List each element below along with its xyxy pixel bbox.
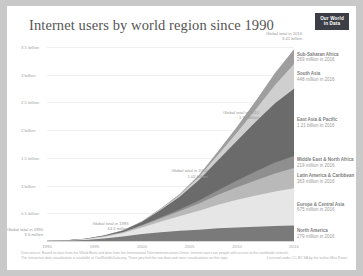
region-name: Latin America & Caribbean (297, 173, 354, 179)
footer-line-2: The interactive data visualization is av… (21, 256, 229, 260)
x-axis-line (47, 241, 294, 242)
chart-card: Internet users by world region since 199… (7, 6, 356, 270)
x-axis-tick-label: 2016 (289, 244, 299, 249)
milestone-value: 3.41 billion (260, 36, 302, 41)
milestone-value: 44.5 million (87, 226, 129, 231)
region-label-south-asia: South Asia448 million in 2016 (297, 71, 335, 82)
milestone-m1995: Global total in 199544.5 million (87, 221, 129, 231)
region-label-middle-east-north-africa: Middle East & North Africa219 million in… (297, 157, 354, 168)
x-axis-tick-label: 2005 (185, 244, 195, 249)
region-value: 219 million in 2016 (297, 163, 354, 169)
region-value: 448 million in 2016 (297, 77, 335, 83)
region-value: 269 million in 2016 (297, 57, 339, 63)
region-value: 675 million in 2016 (297, 207, 344, 213)
region-label-latin-america-caribbean: Latin America & Caribbean363 million in … (297, 173, 354, 184)
x-axis-tick-label: 2010 (232, 244, 242, 249)
footer-license: Licensed under CC-BY-SA by the author Ma… (267, 256, 348, 261)
milestone-value: 3.5 million (1, 232, 43, 237)
y-axis-tick-label: 1 billion (21, 183, 36, 188)
stacked-area-plot (47, 36, 294, 241)
milestone-label: Global total in 2000 (171, 168, 207, 173)
area-series-svg (47, 36, 294, 241)
region-label-europe-central-asia: Europe & Central Asia675 million in 2016 (297, 202, 344, 213)
region-name: Middle East & North Africa (297, 157, 354, 163)
x-axis-tick-label: 2000 (137, 244, 147, 249)
milestone-m2000: Global total in 20001.02 billion (166, 168, 208, 178)
region-label-north-america: North America279 million in 2016 (297, 228, 335, 239)
x-axis-tick-label: 1995 (90, 244, 100, 249)
y-axis-tick-label: 2 billion (21, 128, 36, 133)
y-axis-tick-label: 1.5 billion (21, 155, 39, 160)
logo-line-1: Our World (320, 16, 344, 21)
milestone-m1990: Global total in 19903.5 million (1, 227, 43, 237)
milestone-value: 1.02 billion (166, 174, 208, 179)
page-title: Internet users by world region since 199… (29, 17, 274, 34)
owid-logo[interactable]: Our World in Data (315, 13, 349, 30)
footer-note: Data source: Based on data from the Worl… (21, 251, 348, 261)
y-axis-tick-label: 3 billion (21, 72, 36, 77)
y-axis-tick-label: 3.5 billion (21, 45, 39, 50)
milestone-m2016: Global total in 20163.41 billion (260, 31, 302, 41)
region-value: 363 million in 2016 (297, 179, 354, 185)
region-value: 279 million in 2016 (297, 234, 335, 240)
y-axis-tick-label: 2.5 billion (21, 100, 39, 105)
milestone-value: 1.99 billion (217, 115, 259, 120)
region-label-sub-saharan-africa: Sub-Saharan Africa269 million in 2016 (297, 52, 339, 63)
logo-line-2: in Data (324, 21, 340, 26)
region-value: 1.21 billion in 2016 (297, 123, 337, 129)
y-axis-tick-label: 0.5 billion (21, 211, 39, 216)
x-axis-tick-label: 1990 (42, 244, 52, 249)
region-label-east-asia-pacific: East Asia & Pacific1.21 billion in 2016 (297, 117, 337, 128)
milestone-m2010: Global total in 20101.99 billion (217, 110, 259, 120)
